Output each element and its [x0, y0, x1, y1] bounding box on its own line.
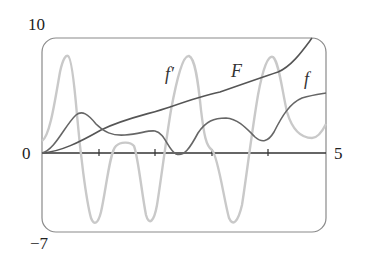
F-label: F — [230, 61, 243, 81]
x-max-label: 5 — [334, 144, 343, 163]
f-label: f — [304, 69, 312, 89]
y-min-label: −7 — [30, 234, 49, 253]
plot-frame — [42, 38, 326, 232]
f-prime-label: f′ — [165, 64, 175, 84]
y-max-label: 10 — [28, 15, 45, 34]
chart-canvas: 10 −7 0 5 f′ F f — [0, 0, 368, 273]
x-origin-label: 0 — [22, 144, 31, 163]
